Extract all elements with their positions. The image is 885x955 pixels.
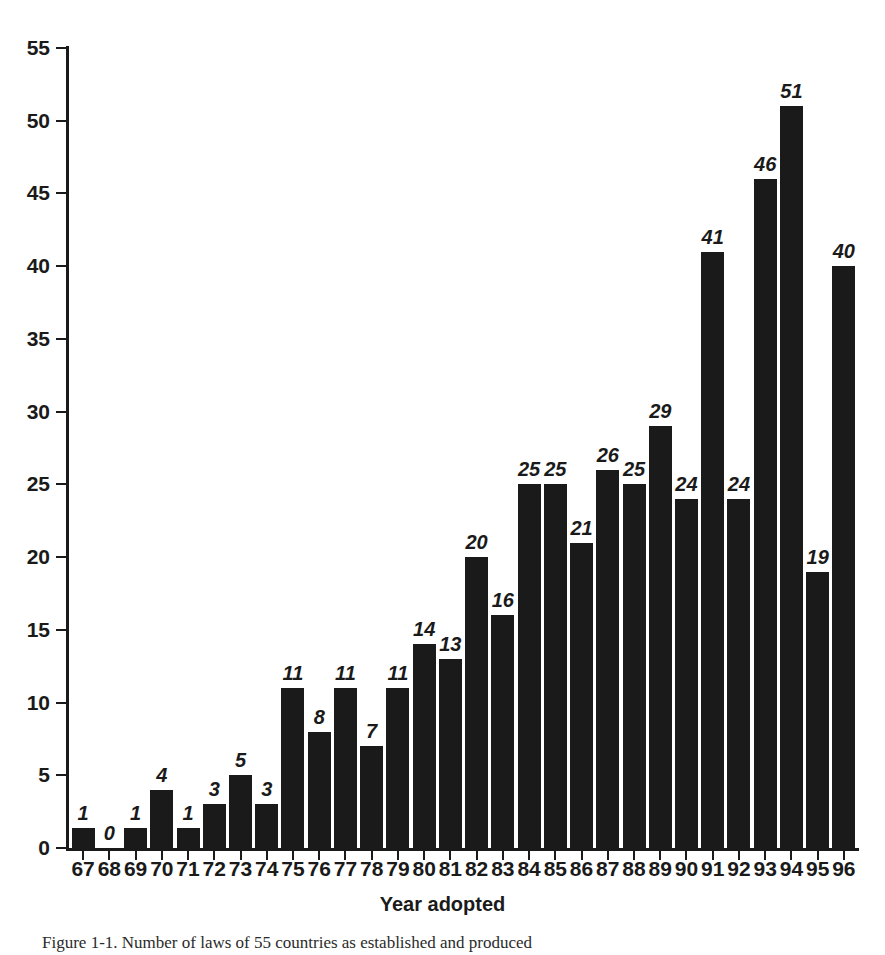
- bar-value-label: 8: [293, 707, 345, 727]
- y-axis-tick-label: 45: [4, 182, 50, 203]
- y-axis-tick-label: 35: [4, 328, 50, 349]
- y-axis-tick: [56, 47, 67, 49]
- bar[interactable]: [439, 659, 462, 848]
- bar[interactable]: [754, 179, 777, 848]
- bar[interactable]: [806, 572, 829, 848]
- y-axis-tick: [56, 702, 67, 704]
- bar[interactable]: [675, 499, 698, 848]
- y-axis-tick-label: 40: [4, 255, 50, 276]
- bar-value-label: 3: [188, 779, 240, 799]
- bar-value-label: 41: [687, 227, 739, 247]
- y-axis-tick: [56, 847, 67, 849]
- bar-value-label: 25: [608, 459, 660, 479]
- bar-value-label: 7: [346, 721, 398, 741]
- y-axis-line: [66, 46, 69, 850]
- bar-value-label: 13: [424, 634, 476, 654]
- bar[interactable]: [518, 484, 541, 848]
- bar-value-label: 0: [83, 823, 135, 843]
- bar[interactable]: [308, 732, 331, 848]
- y-axis-tick-label: 5: [4, 764, 50, 785]
- bar-value-label: 1: [110, 803, 162, 823]
- y-axis-tick-label: 25: [4, 473, 50, 494]
- bar[interactable]: [544, 484, 567, 848]
- bar[interactable]: [386, 688, 409, 848]
- bar-value-label: 21: [556, 518, 608, 538]
- bar-value-label: 1: [57, 803, 109, 823]
- bar-value-label: 1: [162, 803, 214, 823]
- bar-value-label: 16: [477, 590, 529, 610]
- y-axis-tick: [56, 265, 67, 267]
- bar-value-label: 24: [713, 474, 765, 494]
- y-axis-tick: [56, 411, 67, 413]
- y-axis-tick: [56, 556, 67, 558]
- bar-value-label: 11: [267, 663, 319, 683]
- bar[interactable]: [177, 828, 200, 848]
- y-axis-tick: [56, 192, 67, 194]
- bar[interactable]: [360, 746, 383, 848]
- y-axis-tick: [56, 483, 67, 485]
- bar[interactable]: [701, 252, 724, 848]
- bar-value-label: 25: [529, 459, 581, 479]
- x-axis-tick-label: 96: [828, 858, 860, 879]
- y-axis-tick-label: 0: [4, 837, 50, 858]
- bar-value-label: 20: [451, 532, 503, 552]
- y-axis-tick: [56, 120, 67, 122]
- bar-value-label: 4: [136, 765, 188, 785]
- bar-value-label: 46: [739, 154, 791, 174]
- figure-caption: Figure 1-1. Number of laws of 55 countri…: [42, 932, 852, 955]
- y-axis-tick-label: 55: [4, 37, 50, 58]
- bar[interactable]: [255, 804, 278, 848]
- y-axis-tick-label: 15: [4, 619, 50, 640]
- y-axis-tick: [56, 338, 67, 340]
- bar-value-label: 24: [660, 474, 712, 494]
- y-axis-tick-label: 30: [4, 401, 50, 422]
- x-axis-title: Year adopted: [0, 893, 885, 916]
- bar[interactable]: [491, 615, 514, 848]
- bar[interactable]: [623, 484, 646, 848]
- y-axis-tick-label: 50: [4, 110, 50, 131]
- bar-value-label: 29: [634, 401, 686, 421]
- bar-value-label: 11: [372, 663, 424, 683]
- bar[interactable]: [780, 106, 803, 848]
- bar[interactable]: [570, 543, 593, 848]
- bar-value-label: 40: [818, 241, 870, 261]
- y-axis-tick: [56, 774, 67, 776]
- y-axis-tick-label: 20: [4, 546, 50, 567]
- bar-value-label: 11: [319, 663, 371, 683]
- y-axis-tick: [56, 629, 67, 631]
- bar-value-label: 5: [215, 750, 267, 770]
- bar-value-label: 51: [765, 81, 817, 101]
- bar-value-label: 19: [792, 547, 844, 567]
- bar-value-label: 3: [241, 779, 293, 799]
- x-axis-line: [66, 848, 859, 851]
- bar[interactable]: [727, 499, 750, 848]
- y-axis-tick-label: 10: [4, 692, 50, 713]
